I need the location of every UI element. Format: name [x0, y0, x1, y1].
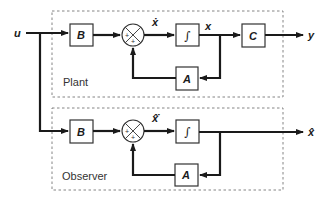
observer-integrator-block: ∫ [176, 120, 199, 143]
observer-summing-junction: + + [122, 120, 144, 142]
svg-text:A: A [181, 169, 190, 181]
observer-group-label: Observer [62, 170, 108, 182]
output-label-xhat: x̂ [307, 126, 315, 138]
svg-text:+: + [125, 128, 129, 135]
svg-text:B: B [77, 126, 85, 138]
svg-text:A: A [182, 73, 191, 85]
plant-c-block: C [242, 24, 265, 47]
plant-x-label: x [204, 20, 212, 32]
wire-observer-xhat-to-a [200, 132, 220, 175]
svg-text:∫: ∫ [184, 29, 191, 43]
plant-b-block: B [70, 24, 93, 46]
plant-a-block: A [176, 67, 198, 90]
plant-integrator-block: ∫ [176, 24, 199, 46]
svg-text:+: + [125, 32, 129, 39]
svg-text:B: B [77, 29, 85, 41]
block-diagram: u B + + ẋ ∫ x C y A Plant B [0, 0, 330, 205]
plant-xdot-label: ẋ [151, 16, 159, 28]
observer-xhatdot-label: x̂̇ [151, 112, 160, 124]
observer-a-block: A [175, 164, 198, 186]
svg-text:+: + [131, 134, 135, 141]
svg-text:∫: ∫ [184, 125, 191, 139]
output-label-y: y [307, 29, 315, 41]
svg-text:C: C [249, 30, 258, 42]
observer-b-block: B [70, 120, 93, 143]
wire-observer-a-to-sum [133, 144, 175, 175]
wire-plant-x-to-a [200, 35, 220, 78]
plant-summing-junction: + + [122, 24, 144, 46]
plant-group-label: Plant [63, 76, 88, 88]
svg-text:+: + [131, 38, 135, 45]
input-label-u: u [14, 27, 21, 39]
wire-plant-a-to-sum [133, 48, 176, 78]
